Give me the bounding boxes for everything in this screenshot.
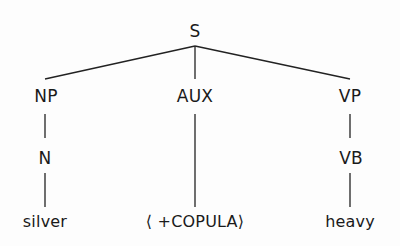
leaf-heavy: heavy [325,214,375,230]
edge-s-np [45,46,195,79]
node-np: NP [34,88,57,105]
node-vb: VB [339,150,363,167]
node-vp: VP [339,88,361,105]
leaf-silver: silver [23,214,67,230]
leaf-copula: ⟨ +COPULA⟩ [146,214,244,230]
syntax-tree-diagram: S NP AUX VP N VB silver ⟨ +COPULA⟩ heavy [0,0,400,246]
node-n: N [39,150,52,167]
node-s: S [190,23,201,40]
node-aux: AUX [177,88,213,105]
edge-s-vp [195,46,350,79]
